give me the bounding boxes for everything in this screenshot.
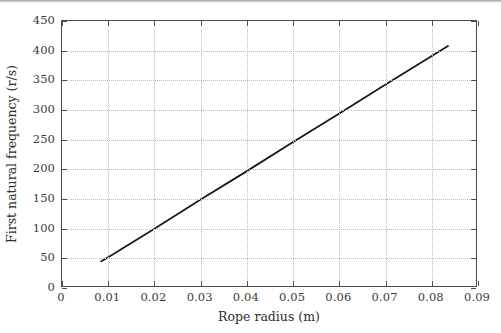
x-gridline (339, 21, 340, 286)
x-axis-tick (293, 21, 294, 26)
x-tick-label: 0.07 (372, 290, 398, 304)
y-axis-label: First natural frequency (r/s) (4, 65, 19, 243)
y-tick-label: 250 (33, 132, 55, 146)
x-tick-label: 0.06 (325, 290, 351, 304)
x-tick-label: 0.02 (140, 290, 166, 304)
y-tick-label: 300 (33, 102, 55, 116)
y-axis-tick (471, 21, 476, 22)
x-axis-tick (62, 281, 63, 286)
x-gridline (154, 21, 155, 286)
y-axis-tick (471, 288, 476, 289)
y-axis-tick (62, 199, 67, 200)
x-axis-tick (339, 281, 340, 286)
x-tick-label: 0.01 (94, 290, 120, 304)
x-axis-tick (432, 281, 433, 286)
y-gridline (62, 169, 476, 170)
y-gridline (62, 140, 476, 141)
x-tick-label: 0.09 (464, 290, 490, 304)
x-axis-tick (339, 21, 340, 26)
x-tick-label: 0.03 (187, 290, 213, 304)
x-axis-tick (154, 21, 155, 26)
y-tick-label: 0 (48, 280, 55, 294)
y-axis-tick (471, 51, 476, 52)
y-axis-tick (471, 110, 476, 111)
x-axis-tick (154, 281, 155, 286)
series-line-first-natural-frequency (62, 21, 478, 288)
x-tick-label: 0.05 (279, 290, 305, 304)
x-tick-label: 0 (57, 290, 64, 304)
y-tick-label: 150 (33, 191, 55, 205)
y-gridline (62, 51, 476, 52)
x-gridline (386, 21, 387, 286)
x-axis-tick (432, 21, 433, 26)
y-axis-tick (471, 140, 476, 141)
y-tick-label: 100 (33, 221, 55, 235)
y-axis-tick (62, 288, 67, 289)
y-tick-label: 50 (40, 250, 55, 264)
x-axis-tick (478, 21, 479, 26)
y-axis-tick (62, 110, 67, 111)
y-axis-tick (471, 80, 476, 81)
x-tick-label: 0.04 (233, 290, 259, 304)
x-axis-tick (247, 21, 248, 26)
y-gridline (62, 80, 476, 81)
x-gridline (108, 21, 109, 286)
x-gridline (432, 21, 433, 286)
y-axis-tick (471, 199, 476, 200)
y-gridline (62, 199, 476, 200)
y-tick-label: 350 (33, 72, 55, 86)
y-axis-tick (62, 80, 67, 81)
y-axis-tick (471, 229, 476, 230)
y-axis-tick (62, 258, 67, 259)
x-axis-tick (201, 281, 202, 286)
y-axis-tick (62, 21, 67, 22)
x-axis-tick (247, 281, 248, 286)
x-axis-tick (108, 281, 109, 286)
y-gridline (62, 110, 476, 111)
x-axis-tick (386, 21, 387, 26)
x-tick-label: 0.08 (418, 290, 444, 304)
chart-page: 00.010.020.030.040.050.060.070.080.09050… (0, 0, 501, 333)
x-gridline (293, 21, 294, 286)
y-axis-tick (62, 51, 67, 52)
x-gridline (201, 21, 202, 286)
y-axis-tick (471, 258, 476, 259)
y-gridline (62, 229, 476, 230)
y-axis-tick (62, 169, 67, 170)
plot-area (61, 20, 477, 287)
y-axis-tick (62, 229, 67, 230)
y-tick-label: 200 (33, 161, 55, 175)
y-tick-label: 400 (33, 43, 55, 57)
y-axis-tick (62, 140, 67, 141)
x-axis-tick (108, 21, 109, 26)
scan-edge-artifact (0, 0, 501, 3)
x-axis-tick (201, 21, 202, 26)
y-tick-label: 450 (33, 13, 55, 27)
x-axis-label: Rope radius (m) (218, 309, 320, 324)
x-axis-tick (293, 281, 294, 286)
x-axis-tick (478, 281, 479, 286)
y-gridline (62, 258, 476, 259)
x-gridline (247, 21, 248, 286)
y-axis-tick (471, 169, 476, 170)
x-axis-tick (386, 281, 387, 286)
